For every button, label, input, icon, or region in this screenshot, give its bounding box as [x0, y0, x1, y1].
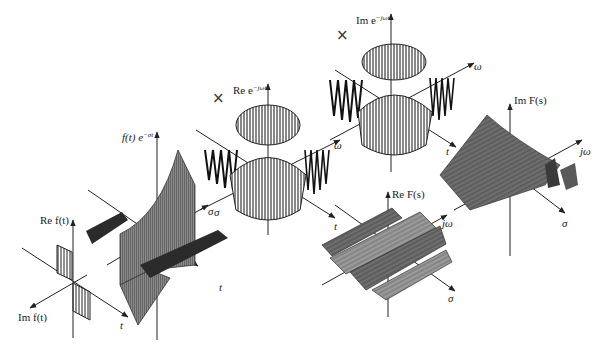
label-im-f: Im f(t) — [18, 311, 47, 324]
label-t-3: t — [334, 220, 338, 232]
imag-dome-bottom — [358, 95, 432, 155]
label-sigma-6: σ — [562, 217, 568, 229]
panel-signal: Re f(t) Im f(t) t — [18, 214, 128, 338]
label-omega-4: ω — [474, 60, 482, 72]
pulse-positive — [57, 245, 72, 280]
label-f-damped: f(t) e−σt — [122, 131, 154, 144]
label-t: t — [120, 319, 124, 331]
panel-imag-transform: Im F(s) jω σ — [440, 94, 591, 256]
panel-imag-kernel: × Im e−jωt ω t — [330, 14, 482, 172]
imag-dome-top — [362, 44, 426, 80]
fringe-right — [305, 150, 329, 194]
label-jomega-5: jω — [440, 217, 453, 229]
kernel-dome-bottom — [230, 158, 306, 221]
fringe-left-4 — [330, 80, 362, 122]
im-fold-2 — [560, 163, 578, 190]
label-re-kernel: Re e−jωt — [233, 84, 267, 96]
label-sigma-3: σ — [214, 206, 220, 218]
laplace-diagram: Re f(t) Im f(t) t f(t) e−σt σ t × Re e−j… — [0, 0, 604, 354]
label-omega-3: ω — [334, 139, 342, 151]
multiply-operator-1: × — [212, 89, 225, 107]
label-re-F: Re F(s) — [392, 188, 425, 201]
label-im-F: Im F(s) — [514, 94, 547, 107]
label-im-kernel: Im e−jωt — [356, 14, 390, 26]
label-sigma-5: σ — [448, 292, 454, 304]
pulse-negative — [73, 283, 90, 320]
kernel-dome-top — [236, 105, 300, 145]
panel-real-kernel: × Re e−jωt ω σ t — [196, 84, 342, 235]
label-t-4: t — [446, 145, 450, 157]
panel-real-transform: Re F(s) jω σ — [322, 188, 455, 317]
multiply-operator-2: × — [336, 26, 349, 44]
label-jomega-6: jω — [578, 145, 591, 157]
label-re-f: Re f(t) — [40, 214, 69, 227]
label-t-2: t — [219, 281, 223, 293]
